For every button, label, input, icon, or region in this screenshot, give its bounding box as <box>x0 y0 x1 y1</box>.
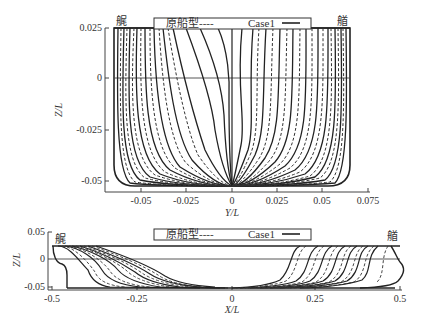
y-axis-title: Z/L <box>11 253 22 267</box>
x-axis-title: Y/L <box>225 207 239 218</box>
x-tick-label: 0.05 <box>313 195 331 206</box>
legend-case1-label: Case1 <box>248 17 275 29</box>
y-tick-label: 0.05 <box>28 226 46 237</box>
bow-label: 艏 <box>337 14 348 28</box>
bow-label: 艏 <box>387 229 398 243</box>
figure: 0.025 0 -0.025 -0.05 -0.05 -0.025 0 0.02… <box>0 0 422 330</box>
x-tick-label: 0 <box>230 195 235 206</box>
y-axis-title: Z/L <box>53 103 64 117</box>
stern-label: 艉 <box>55 232 66 246</box>
y-tick-label: 0 <box>40 253 45 264</box>
x-tick-label: -0.05 <box>131 195 152 206</box>
x-tick-label: 0.25 <box>306 293 324 304</box>
y-tick-label: 0.025 <box>80 22 103 33</box>
stern-label: 艉 <box>116 14 127 28</box>
y-tick-label: -0.05 <box>81 175 102 186</box>
body-plan-chart: 0.025 0 -0.025 -0.05 -0.05 -0.025 0 0.02… <box>53 14 379 218</box>
profile-chart: 0.05 0 -0.05 -0.5 -0.25 0 0.25 0.5 X/L Z… <box>11 226 406 315</box>
y-tick-label: 0 <box>97 72 102 83</box>
x-tick-label: -0.25 <box>127 293 148 304</box>
y-tick-label: -0.025 <box>76 124 102 135</box>
legend-original-label: 原船型---- <box>166 227 214 240</box>
case1-bow-buttocks <box>232 246 378 288</box>
x-tick-label: 0.5 <box>394 293 407 304</box>
y-tick-label: -0.05 <box>24 281 45 292</box>
x-tick-label: 0.025 <box>266 195 289 206</box>
x-tick-label: -0.5 <box>44 293 60 304</box>
legend-case1-label: Case1 <box>248 228 275 240</box>
legend-original-label: 原船型---- <box>166 16 214 29</box>
x-tick-label: 0.075 <box>357 195 380 206</box>
x-tick-label: 0 <box>230 293 235 304</box>
stern-profile <box>53 246 67 288</box>
x-tick-label: -0.025 <box>173 195 199 206</box>
x-axis-title: X/L <box>224 304 240 315</box>
bow-profile <box>360 246 404 288</box>
case1-bow-sections <box>232 28 347 186</box>
